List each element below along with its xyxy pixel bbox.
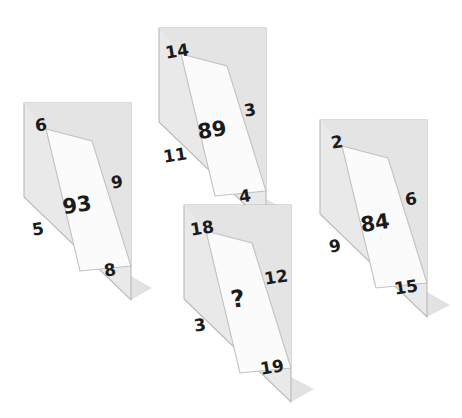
shape-left-center-value: 93 — [61, 191, 94, 219]
puzzle-canvas: 6 9 5 8 93 14 3 11 4 89 2 6 — [0, 0, 462, 418]
shape-right-corner-bottom: 15 — [393, 275, 420, 298]
shape-left-corner-left: 5 — [31, 218, 46, 240]
shape-top-corner-top: 14 — [164, 39, 191, 62]
shape-right-corner-left: 9 — [328, 235, 343, 257]
puzzle-shape-left[interactable]: 6 9 5 8 93 — [24, 103, 152, 300]
puzzle-shape-top[interactable]: 14 3 11 4 89 — [159, 28, 290, 225]
shape-bottom-corner-right: 12 — [263, 265, 290, 288]
shape-top-center-value: 89 — [196, 116, 229, 144]
puzzle-shape-right[interactable]: 2 6 9 15 84 — [320, 120, 450, 317]
shape-top-corner-left: 11 — [162, 143, 189, 166]
shape-bottom-corner-top: 18 — [189, 216, 216, 239]
shape-left-shadow — [131, 276, 152, 300]
shape-bottom-shadow — [291, 377, 314, 402]
shape-right-shadow — [427, 292, 450, 317]
puzzle-illustration: 6 9 5 8 93 14 3 11 4 89 2 6 — [0, 0, 462, 418]
shape-bottom-corner-bottom: 19 — [259, 355, 286, 378]
puzzle-shape-bottom[interactable]: 18 12 3 19 ? — [184, 205, 314, 402]
shape-right-center-value: 84 — [359, 209, 392, 237]
